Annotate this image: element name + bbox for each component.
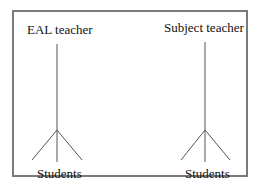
eal-students-label: Students xyxy=(37,167,82,180)
subject-teacher-tree xyxy=(181,42,230,162)
subject-teacher-label: Subject teacher xyxy=(164,21,244,34)
eal-teacher-label: EAL teacher xyxy=(27,23,93,36)
eal-teacher-tree xyxy=(32,44,82,162)
subject-students-label: Students xyxy=(185,167,230,180)
